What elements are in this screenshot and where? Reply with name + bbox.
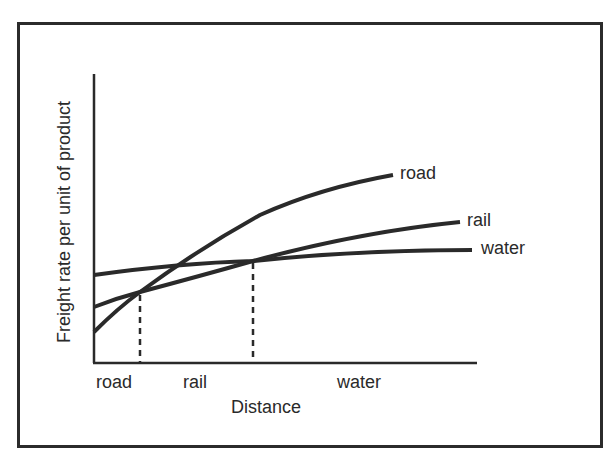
line-label-rail: rail (467, 210, 491, 231)
chart-plot (0, 0, 615, 468)
region-label-road: road (96, 372, 132, 393)
region-label-water: water (337, 372, 381, 393)
line-label-road: road (400, 163, 436, 184)
region-label-rail: rail (183, 372, 207, 393)
line-label-water: water (481, 238, 525, 259)
rail-line (94, 222, 460, 307)
y-axis-label: Freight rate per unit of product (54, 101, 75, 343)
x-axis-label: Distance (231, 397, 301, 418)
